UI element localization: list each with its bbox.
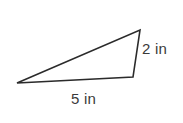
triangle-outline	[17, 30, 140, 83]
triangle-figure: 2 in 5 in	[0, 0, 183, 123]
side-length-label-right: 2 in	[142, 41, 167, 56]
side-length-label-base: 5 in	[71, 91, 96, 106]
